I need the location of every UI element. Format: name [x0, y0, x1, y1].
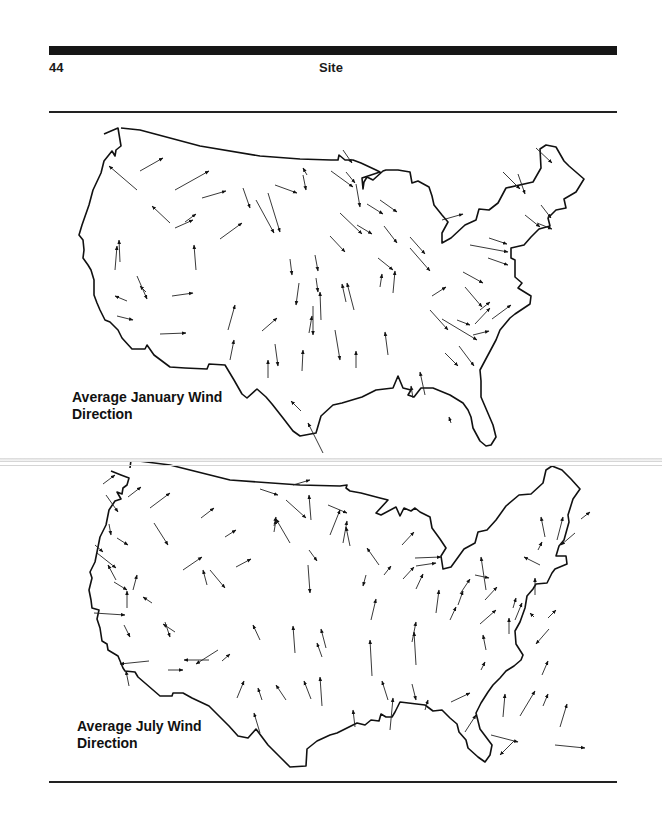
wind-arrow-icon: [340, 213, 362, 234]
wind-arrow-icon: [524, 557, 540, 565]
wind-arrow-icon: [520, 691, 535, 716]
wind-arrow-icon: [172, 293, 193, 296]
wind-arrow-icon: [416, 563, 436, 566]
wind-arrow-icon: [303, 175, 306, 190]
wind-arrow-icon: [390, 698, 393, 730]
wind-arrow-icon: [475, 308, 490, 324]
wind-arrow-icon: [432, 287, 446, 296]
wind-arrow-icon: [160, 333, 186, 334]
wind-arrow-icon: [384, 226, 397, 243]
wind-arrow-icon: [109, 166, 137, 190]
wind-arrow-icon: [293, 626, 295, 653]
wind-arrow-icon: [414, 632, 416, 665]
wind-arrow-icon: [371, 599, 376, 620]
wind-arrow-icon: [133, 575, 137, 590]
wind-arrow-icon: [483, 635, 486, 650]
wind-arrow-icon: [430, 310, 448, 330]
january-caption-line2: Direction: [72, 406, 222, 423]
july-wind-arrows: [94, 475, 590, 755]
wind-arrow-icon: [143, 597, 152, 603]
wind-arrow-icon: [445, 353, 458, 366]
wind-arrow-icon: [378, 258, 393, 270]
bottom-divider: [49, 781, 617, 783]
wind-arrow-icon: [316, 278, 318, 292]
wind-arrow-icon: [109, 524, 111, 535]
wind-arrow-icon: [500, 741, 514, 755]
wind-arrow-icon: [175, 171, 209, 190]
wind-arrow-icon: [459, 346, 474, 366]
july-map-caption: Average July Wind Direction: [77, 718, 202, 752]
wind-arrow-icon: [416, 574, 423, 589]
wind-arrow-icon: [380, 274, 382, 287]
wind-arrow-icon: [536, 148, 552, 163]
wind-arrow-icon: [420, 372, 425, 395]
wind-arrow-icon: [320, 292, 321, 320]
wind-arrow-icon: [117, 538, 128, 545]
wind-arrow-icon: [276, 685, 286, 700]
wind-arrow-icon: [296, 283, 299, 305]
wind-arrow-icon: [210, 570, 225, 588]
wind-arrow-icon: [465, 715, 476, 732]
scan-fold-line-secondary: [0, 465, 662, 466]
wind-arrow-icon: [175, 220, 193, 228]
wind-arrow-icon: [253, 625, 260, 640]
wind-arrow-icon: [237, 681, 244, 698]
wind-arrow-icon: [457, 320, 470, 325]
wind-arrow-icon: [357, 225, 372, 234]
wind-arrow-icon: [541, 205, 551, 218]
wind-arrow-icon: [183, 557, 202, 570]
wind-arrow-icon: [308, 565, 310, 593]
wind-arrow-icon: [152, 206, 170, 223]
wind-arrow-icon: [258, 688, 262, 700]
wind-arrow-icon: [485, 587, 497, 600]
july-caption-line1: Average July Wind: [77, 718, 202, 735]
wind-arrow-icon: [410, 237, 425, 254]
wind-arrow-icon: [449, 417, 451, 423]
wind-arrow-icon: [202, 191, 226, 198]
wind-arrow-icon: [342, 284, 346, 302]
wind-arrow-icon: [492, 305, 511, 319]
wind-arrow-icon: [581, 512, 590, 519]
wind-arrow-icon: [561, 533, 575, 545]
wind-arrow-icon: [103, 475, 115, 484]
wind-arrow-icon: [126, 671, 129, 686]
wind-arrow-icon: [275, 344, 278, 366]
wind-arrow-icon: [117, 316, 133, 320]
wind-arrow-icon: [120, 661, 149, 664]
wind-arrow-icon: [346, 172, 355, 183]
wind-arrow-icon: [473, 331, 489, 335]
wind-arrow-icon: [243, 188, 250, 208]
january-map-caption: Average January Wind Direction: [72, 389, 222, 423]
january-caption-line1: Average January Wind: [72, 389, 222, 406]
wind-arrow-icon: [150, 493, 170, 508]
wind-arrow-icon: [370, 640, 372, 676]
wind-arrow-icon: [451, 693, 470, 702]
wind-arrow-icon: [291, 401, 301, 411]
wind-arrow-icon: [321, 629, 326, 648]
wind-arrow-icon: [320, 677, 322, 706]
wind-arrow-icon: [385, 332, 388, 355]
wind-arrow-icon: [489, 238, 507, 244]
wind-arrow-icon: [328, 505, 347, 513]
wind-arrow-icon: [203, 570, 207, 585]
wind-arrow-icon: [128, 487, 141, 497]
wind-arrow-icon: [536, 629, 549, 644]
wind-arrow-icon: [356, 184, 360, 207]
wind-arrow-icon: [308, 423, 323, 453]
wind-arrow-icon: [393, 271, 395, 293]
wind-arrow-icon: [382, 681, 388, 700]
wind-arrow-icon: [225, 530, 236, 537]
wind-arrow-icon: [196, 650, 218, 664]
july-caption-line2: Direction: [77, 735, 202, 752]
wind-arrow-icon: [380, 200, 397, 212]
wind-arrow-icon: [465, 287, 482, 307]
wind-arrow-icon: [442, 214, 463, 220]
wind-arrow-icon: [363, 575, 366, 586]
wind-arrow-icon: [541, 517, 545, 537]
wind-arrow-icon: [331, 171, 353, 187]
wind-arrow-icon: [309, 550, 317, 561]
wind-arrow-icon: [97, 553, 116, 568]
wind-arrow-icon: [538, 542, 542, 550]
wind-arrow-icon: [317, 643, 322, 657]
wind-arrow-icon: [557, 517, 563, 540]
